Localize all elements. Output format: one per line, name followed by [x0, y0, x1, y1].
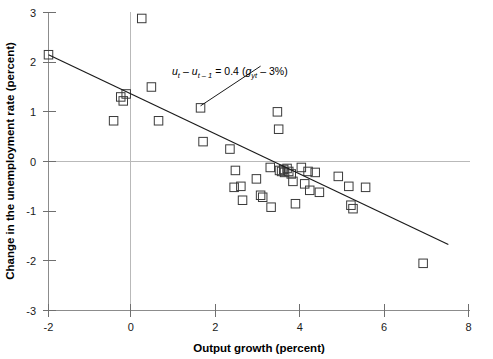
scatter-point [196, 104, 205, 113]
eq-sub-t: t [178, 71, 181, 80]
scatter-markers-group [44, 14, 427, 267]
chart-canvas: 3 2 1 0 -1 -2 -3 -2 0 2 4 6 8 Output gro… [0, 0, 493, 359]
x-tick-label-neg2: -2 [44, 321, 54, 333]
scatter-point [266, 163, 275, 172]
x-tick-label-6: 6 [381, 321, 387, 333]
y-tick-label-neg2: -2 [26, 255, 36, 267]
scatter-point [273, 108, 282, 117]
scatter-point [256, 191, 265, 200]
scatter-point [252, 175, 261, 184]
x-axis-title: Output growth (percent) [193, 342, 325, 354]
okun-law-scatter-figure: 3 2 1 0 -1 -2 -3 -2 0 2 4 6 8 Output gro… [0, 0, 493, 359]
scatter-point [305, 186, 314, 195]
scatter-point [347, 201, 356, 210]
eq-sub-t-prev: t – 1 [198, 71, 213, 80]
x-axis-tick-labels: -2 0 2 4 6 8 [44, 321, 472, 333]
scatter-point [274, 125, 283, 134]
y-tick-label-2: 2 [30, 56, 36, 68]
scatter-point [147, 83, 156, 92]
scatter-point [137, 14, 146, 22]
scatter-point [419, 259, 428, 268]
scatter-point [154, 117, 163, 126]
scatter-point [345, 182, 354, 191]
equation-text: ut–ut – 1=0.4(gyt–3%) [172, 65, 288, 80]
y-tick-label-neg3: -3 [26, 305, 36, 317]
scatter-point [238, 196, 247, 205]
scatter-point [226, 145, 235, 154]
y-axis-tick-labels: 3 2 1 0 -1 -2 -3 [26, 7, 36, 317]
scatter-point [231, 166, 240, 175]
y-tick-label-1: 1 [30, 106, 36, 118]
eq-sub-yt: yt [250, 71, 258, 80]
scatter-point [315, 188, 324, 197]
eq-three-pct: 3% [269, 65, 284, 77]
scatter-point [291, 199, 300, 208]
zero-lines [48, 12, 470, 310]
x-tick-label-4: 4 [297, 321, 303, 333]
eq-equals: = [215, 65, 221, 77]
eq-coefficient: 0.4 [224, 65, 239, 77]
scatter-point [361, 183, 370, 192]
scatter-point [267, 203, 276, 212]
eq-minus: – [183, 65, 189, 77]
equation-annotation: ut–ut – 1=0.4(gyt–3%) [172, 65, 288, 80]
scatter-point [199, 137, 208, 146]
x-tick-label-8: 8 [465, 321, 471, 333]
y-tick-label-0: 0 [30, 156, 36, 168]
scatter-point [109, 117, 118, 126]
x-tick-label-0: 0 [128, 321, 134, 333]
scatter-point [300, 180, 309, 189]
scatter-point [258, 193, 267, 202]
y-tick-label-3: 3 [30, 7, 36, 19]
eq-minus2: – [260, 65, 266, 77]
eq-close-paren: ) [284, 65, 288, 77]
y-tick-label-neg1: -1 [26, 205, 36, 217]
scatter-point [334, 172, 343, 181]
x-tick-label-2: 2 [212, 321, 218, 333]
scatter-point [349, 204, 358, 213]
y-axis-title: Change in the unemployment rate (percent… [4, 42, 16, 280]
regression-line [49, 55, 449, 245]
